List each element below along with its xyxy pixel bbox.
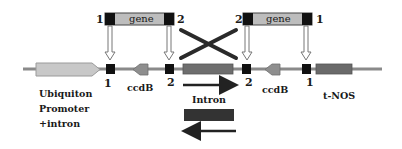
tNOS-box [316,64,352,74]
att-site-1-right [302,64,311,74]
att-site-1-left [106,64,115,74]
ccdB-left-label: ccdB [127,82,153,93]
intron-legend-box [184,109,234,121]
ccdB-left-arrow [133,64,148,75]
promoter-label-line1: Ubiquiton [39,88,92,99]
hairpin-vector-diagram: 1 2 2 1 gene gene 1 2 2 1 ccdB ccdB t-NO… [0,0,402,149]
ccdB-right-label: ccdB [262,84,288,95]
site-1-left-label: 1 [104,77,112,90]
promoter-label-line2: Promoter [39,103,90,114]
gene-right-label: gene [266,13,291,24]
promoter-label-line3: +intron [39,118,80,129]
gene-left-site-1-label: 1 [96,13,104,26]
att-site-2-right [242,64,251,74]
gene-left-label: gene [129,13,154,24]
intron-box [183,64,233,74]
att-site-2-left [165,64,174,74]
ccdB-right-arrow [265,64,280,75]
intron-label: Intron [192,94,226,105]
site-2-left-label: 2 [167,76,175,89]
promoter-arrow [36,63,100,76]
crossover-lines [181,30,236,58]
gene-right-site-2-label: 2 [235,13,243,26]
tNOS-label: t-NOS [323,90,355,101]
site-2-right-label: 2 [245,76,253,89]
gene-left-site-2-label: 2 [177,13,185,26]
site-1-right-label: 1 [306,76,314,89]
gene-right-site-1-label: 1 [316,13,324,26]
